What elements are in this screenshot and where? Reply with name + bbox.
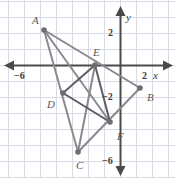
point-label-C: C xyxy=(76,160,83,171)
x-tick-label-neg6: −6 xyxy=(14,71,25,81)
coordinate-plot-svg xyxy=(0,0,175,178)
x-tick-label-2: 2 xyxy=(142,71,147,81)
shapes-group xyxy=(44,30,140,152)
vertex-dot-F xyxy=(107,119,113,125)
vertex-dot-C xyxy=(75,149,81,155)
point-label-A: A xyxy=(32,15,39,26)
vertex-dot-D xyxy=(60,90,66,96)
y-tick-label-2: 2 xyxy=(108,28,113,38)
y-axis-arrow-up xyxy=(116,6,126,16)
x-axis-label: x xyxy=(153,70,158,81)
y-tick-label-neg2: −2 xyxy=(102,92,113,102)
y-axis-label: y xyxy=(126,12,131,23)
point-label-D: D xyxy=(47,99,55,110)
vertex-dot-A xyxy=(41,27,47,33)
point-label-F: F xyxy=(117,131,124,142)
vertex-dot-E xyxy=(92,62,98,68)
coordinate-plane-figure: A B C D E F −6 2 2 −2 −6 x y xyxy=(0,0,175,178)
point-label-B: B xyxy=(147,92,154,103)
point-label-E: E xyxy=(93,47,100,58)
y-tick-label-neg6: −6 xyxy=(102,156,113,166)
vertex-dot-B xyxy=(137,85,143,91)
y-axis-arrow-down xyxy=(116,166,126,176)
